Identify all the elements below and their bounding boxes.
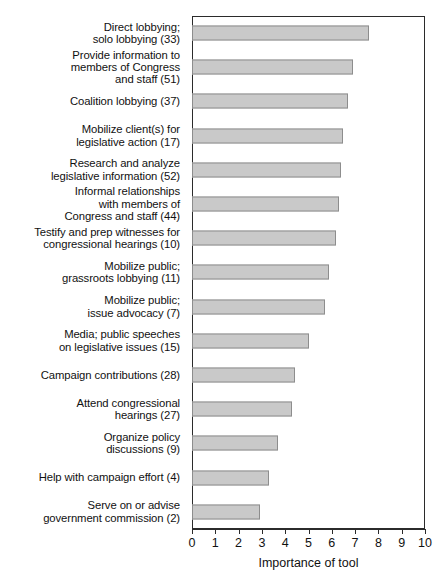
x-tick xyxy=(425,529,426,534)
bar-row: Testify and prep witnesses for congressi… xyxy=(0,221,434,255)
bar-row: Provide information to members of Congre… xyxy=(0,50,434,84)
x-tick xyxy=(239,529,240,534)
bar-track xyxy=(192,290,425,324)
bar xyxy=(192,94,348,109)
bar xyxy=(192,60,353,75)
x-tick-label: 9 xyxy=(390,536,414,550)
bar-track xyxy=(192,255,425,289)
bar-category-label: Help with campaign effort (4) xyxy=(0,471,186,483)
bar-category-label: Direct lobbying; solo lobbying (33) xyxy=(0,21,186,46)
bar-category-label: Research and analyze legislative informa… xyxy=(0,157,186,182)
bar xyxy=(192,333,309,348)
x-tick xyxy=(192,529,193,534)
x-axis-title: Importance of tool xyxy=(192,556,425,570)
bar-category-label: Mobilize client(s) for legislative actio… xyxy=(0,123,186,148)
x-tick xyxy=(378,529,379,534)
bar xyxy=(192,128,343,143)
bar xyxy=(192,402,292,417)
x-tick xyxy=(215,529,216,534)
bar-category-label: Testify and prep witnesses for congressi… xyxy=(0,226,186,251)
bar-track xyxy=(192,460,425,494)
bar xyxy=(192,265,329,280)
bar-track xyxy=(192,221,425,255)
x-tick xyxy=(309,529,310,534)
x-tick-label: 0 xyxy=(180,536,204,550)
x-tick xyxy=(285,529,286,534)
bar-category-label: Informal relationships with members of C… xyxy=(0,185,186,222)
bar-track xyxy=(192,119,425,153)
bar xyxy=(192,231,336,246)
bar-track xyxy=(192,324,425,358)
bar xyxy=(192,504,260,519)
bar-row: Coalition lobbying (37) xyxy=(0,84,434,118)
bar-chart: Direct lobbying; solo lobbying (33)Provi… xyxy=(0,0,434,579)
x-tick-label: 3 xyxy=(250,536,274,550)
bar-track xyxy=(192,187,425,221)
bar xyxy=(192,197,339,212)
x-tick-label: 5 xyxy=(297,536,321,550)
bar-track xyxy=(192,495,425,529)
x-tick xyxy=(262,529,263,534)
bar-row: Media; public speeches on legislative is… xyxy=(0,324,434,358)
bar-rows: Direct lobbying; solo lobbying (33)Provi… xyxy=(0,16,434,529)
x-tick-label: 8 xyxy=(366,536,390,550)
bar xyxy=(192,162,341,177)
bar-category-label: Campaign contributions (28) xyxy=(0,369,186,381)
bar-category-label: Mobilize public; issue advocacy (7) xyxy=(0,294,186,319)
bar-track xyxy=(192,358,425,392)
bar xyxy=(192,470,269,485)
bar-category-label: Coalition lobbying (37) xyxy=(0,95,186,107)
bar-row: Help with campaign effort (4) xyxy=(0,460,434,494)
bar xyxy=(192,367,295,382)
x-tick-label: 4 xyxy=(273,536,297,550)
bar-category-label: Provide information to members of Congre… xyxy=(0,49,186,86)
x-axis: 012345678910 xyxy=(192,529,425,530)
bar-category-label: Organize policy discussions (9) xyxy=(0,431,186,456)
bar-track xyxy=(192,392,425,426)
bar-row: Mobilize public; issue advocacy (7) xyxy=(0,290,434,324)
x-tick xyxy=(355,529,356,534)
x-tick xyxy=(402,529,403,534)
bar-track xyxy=(192,153,425,187)
bar-row: Informal relationships with members of C… xyxy=(0,187,434,221)
bar-category-label: Serve on or advise government commission… xyxy=(0,499,186,524)
bar-track xyxy=(192,426,425,460)
bar-category-label: Mobilize public; grassroots lobbying (11… xyxy=(0,260,186,285)
x-tick xyxy=(332,529,333,534)
x-tick-label: 1 xyxy=(203,536,227,550)
bar-category-label: Attend congressional hearings (27) xyxy=(0,397,186,422)
bar-track xyxy=(192,84,425,118)
x-tick-label: 6 xyxy=(320,536,344,550)
bar xyxy=(192,436,278,451)
x-tick-label: 10 xyxy=(413,536,434,550)
bar xyxy=(192,299,325,314)
bar xyxy=(192,26,369,41)
bar-track xyxy=(192,50,425,84)
bar-row: Serve on or advise government commission… xyxy=(0,495,434,529)
x-tick-label: 2 xyxy=(227,536,251,550)
bar-row: Attend congressional hearings (27) xyxy=(0,392,434,426)
bar-track xyxy=(192,16,425,50)
bar-row: Campaign contributions (28) xyxy=(0,358,434,392)
bar-row: Direct lobbying; solo lobbying (33) xyxy=(0,16,434,50)
bar-row: Mobilize client(s) for legislative actio… xyxy=(0,119,434,153)
bar-row: Mobilize public; grassroots lobbying (11… xyxy=(0,255,434,289)
bar-row: Research and analyze legislative informa… xyxy=(0,153,434,187)
bar-row: Organize policy discussions (9) xyxy=(0,426,434,460)
x-tick-label: 7 xyxy=(343,536,367,550)
bar-category-label: Media; public speeches on legislative is… xyxy=(0,328,186,353)
